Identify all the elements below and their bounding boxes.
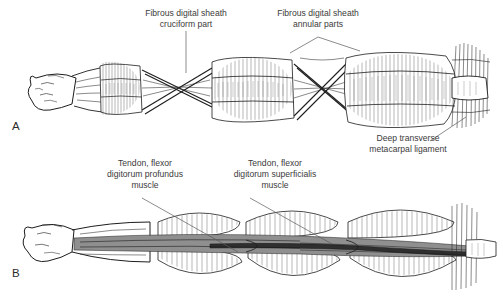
annotation-annular-line2: annular parts [293,19,343,29]
annotation-cruciform-line2: cruciform part [160,19,213,29]
panel-b-illustration [23,191,496,296]
annotation-deep-transverse: Deep transverse metacarpal ligament [369,133,447,154]
panel-letter-a: A [12,120,20,132]
flexor-tendon-group [74,234,470,256]
annotation-cruciform: Fibrous digital sheath cruciform part [145,8,227,29]
annotation-profundus-line1: Tendon, flexor [118,158,172,168]
annotation-superficialis-line3: muscle [261,180,288,190]
fingertip-outline-b [23,224,74,261]
annotation-profundus-line2: digitorum profundus [107,169,183,179]
metacarpal-stub [452,76,488,100]
annular-pulley-distal [100,62,142,117]
figure-canvas: Fibrous digital sheath cruciform part Fi… [0,0,503,298]
annotation-deep-transverse-line1: Deep transverse [376,133,439,143]
annular-pulley-middle [212,54,294,125]
annotation-annular-line1: Fibrous digital sheath [277,8,359,18]
annotation-superficialis-line2: digitorum superficialis [234,169,317,179]
annotation-profundus: Tendon, flexor digitorum profundus muscl… [107,158,183,190]
fingertip-outline [28,74,76,110]
distal-shaft [72,68,102,112]
annotation-superficialis-line1: Tendon, flexor [248,158,302,168]
annotation-annular: Fibrous digital sheath annular parts [277,8,359,29]
tendon-exit-stub [466,239,496,258]
annular-pulley-proximal [344,47,456,131]
panel-a-illustration [28,43,490,131]
leader-annular-fork [290,37,360,53]
cruciform-part-distal [142,68,214,114]
panel-letter-b: B [12,267,20,279]
annotation-cruciform-line1: Fibrous digital sheath [145,8,227,18]
annotation-profundus-line3: muscle [131,180,158,190]
annotation-superficialis: Tendon, flexor digitorum superficialis m… [234,158,317,190]
anatomical-figure: Fibrous digital sheath cruciform part Fi… [0,0,503,298]
cruciform-part-proximal [294,58,351,120]
annotation-deep-transverse-line2: metacarpal ligament [369,144,447,154]
